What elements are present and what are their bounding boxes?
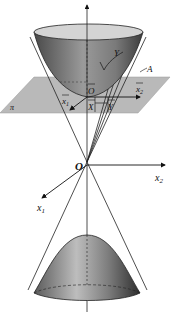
diagram-canvas: O x2 x1 π O X Y x1 x2 Y A — [0, 0, 172, 312]
label-origin: O — [75, 160, 83, 172]
lower-paraboloid — [34, 235, 140, 301]
label-x1: x1 — [36, 202, 45, 215]
label-o-bar: O — [88, 86, 95, 96]
label-a: A — [146, 64, 153, 74]
label-x2: x2 — [154, 172, 163, 185]
label-x-bar: X — [87, 102, 94, 112]
